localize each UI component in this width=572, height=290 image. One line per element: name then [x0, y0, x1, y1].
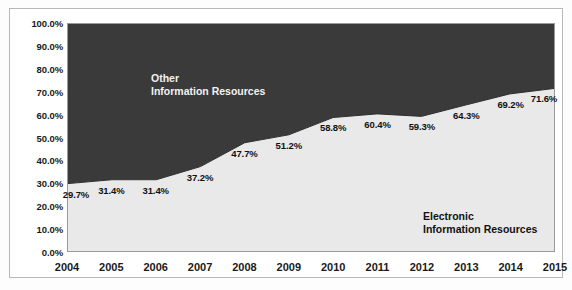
- x-axis: 2004200520062007200820092010201120122013…: [67, 261, 555, 281]
- x-axis-tick: 2006: [143, 261, 167, 273]
- y-axis: 0.0%10.0%20.0%30.0%40.0%50.0%60.0%70.0%8…: [19, 23, 65, 252]
- y-axis-tick: 70.0%: [37, 86, 63, 97]
- y-axis-tick: 90.0%: [37, 40, 63, 51]
- y-axis-tick: 50.0%: [37, 132, 63, 143]
- y-axis-tick: 0.0%: [42, 247, 63, 258]
- series-label-electronic-information-resources: Electronic Information Resources: [423, 210, 537, 237]
- y-axis-tick: 60.0%: [37, 109, 63, 120]
- chart-frame: 0.0%10.0%20.0%30.0%40.0%50.0%60.0%70.0%8…: [9, 8, 563, 278]
- x-axis-tick: 2004: [55, 261, 79, 273]
- x-axis-tick: 2009: [277, 261, 301, 273]
- series-label-other-information-resources: Other Information Resources: [151, 72, 265, 99]
- x-axis-tick: 2015: [543, 261, 567, 273]
- x-axis-tick: 2005: [99, 261, 123, 273]
- y-axis-tick: 10.0%: [37, 224, 63, 235]
- y-axis-tick: 80.0%: [37, 63, 63, 74]
- plot-area: Other Information Resources Electronic I…: [67, 23, 555, 252]
- y-axis-tick: 100.0%: [31, 18, 63, 29]
- x-axis-tick: 2013: [454, 261, 478, 273]
- x-axis-tick: 2012: [410, 261, 434, 273]
- y-axis-tick: 20.0%: [37, 201, 63, 212]
- x-axis-tick: 2011: [366, 261, 390, 273]
- x-axis-tick: 2007: [188, 261, 212, 273]
- x-axis-tick: 2008: [232, 261, 256, 273]
- x-axis-tick: 2014: [498, 261, 522, 273]
- y-axis-tick: 30.0%: [37, 178, 63, 189]
- chart-screenshot: 0.0%10.0%20.0%30.0%40.0%50.0%60.0%70.0%8…: [0, 0, 572, 290]
- y-axis-tick: 40.0%: [37, 155, 63, 166]
- x-axis-tick: 2010: [321, 261, 345, 273]
